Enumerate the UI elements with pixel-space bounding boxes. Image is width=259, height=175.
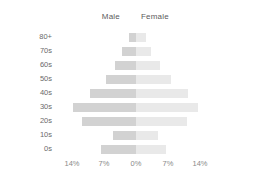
legend-item-male: Male — [102, 10, 120, 24]
y-axis-label-30s: 30s — [0, 100, 52, 114]
x-axis-tick: 14% — [192, 158, 207, 170]
bar-male-20s — [82, 117, 136, 126]
plot-area: 80+70s60s50s40s30s20s10s0s — [0, 28, 259, 156]
bar-male-80plus — [129, 33, 136, 42]
pyramid-row: 20s — [0, 114, 259, 128]
y-axis-label-20s: 20s — [0, 114, 52, 128]
bar-male-70s — [122, 47, 136, 56]
x-axis-tick: 14% — [65, 158, 80, 170]
pyramid-row: 80+ — [0, 30, 259, 44]
chart-legend: Male Female — [0, 10, 259, 24]
bar-female-60s — [136, 61, 160, 70]
bar-male-50s — [106, 75, 136, 84]
bar-male-30s — [73, 103, 136, 112]
y-axis-label-70s: 70s — [0, 44, 52, 58]
bar-female-10s — [136, 131, 158, 140]
bar-male-40s — [90, 89, 136, 98]
bar-female-50s — [136, 75, 171, 84]
y-axis-label-10s: 10s — [0, 128, 52, 142]
bar-female-0s — [136, 145, 166, 154]
bar-female-80plus — [136, 33, 146, 42]
bar-female-20s — [136, 117, 187, 126]
bar-male-60s — [115, 61, 136, 70]
bar-male-10s — [113, 131, 136, 140]
x-axis-tick: 7% — [99, 158, 110, 170]
bar-male-0s — [101, 145, 136, 154]
x-axis-tick: 7% — [163, 158, 174, 170]
pyramid-row: 40s — [0, 86, 259, 100]
pyramid-row: 60s — [0, 58, 259, 72]
y-axis-label-40s: 40s — [0, 86, 52, 100]
x-axis: 14%7%0%7%14% — [0, 158, 259, 170]
pyramid-row: 70s — [0, 44, 259, 58]
population-pyramid-chart: Male Female 80+70s60s50s40s30s20s10s0s 1… — [0, 0, 259, 175]
pyramid-row: 30s — [0, 100, 259, 114]
y-axis-label-60s: 60s — [0, 58, 52, 72]
bar-female-70s — [136, 47, 151, 56]
pyramid-row: 50s — [0, 72, 259, 86]
bar-female-30s — [136, 103, 198, 112]
pyramid-row: 10s — [0, 128, 259, 142]
legend-item-female: Female — [141, 10, 169, 24]
pyramid-row: 0s — [0, 142, 259, 156]
x-axis-tick: 0% — [131, 158, 142, 170]
bar-female-40s — [136, 89, 188, 98]
y-axis-label-0s: 0s — [0, 142, 52, 156]
y-axis-label-80plus: 80+ — [0, 30, 52, 44]
y-axis-label-50s: 50s — [0, 72, 52, 86]
